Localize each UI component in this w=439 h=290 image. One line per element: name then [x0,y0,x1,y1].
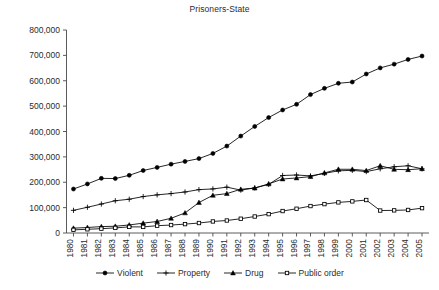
data-point [113,177,117,181]
data-point [323,202,326,205]
data-point [169,162,173,166]
filled-circle-icon [95,268,115,278]
data-point [169,223,172,226]
data-point [183,222,186,225]
data-point [100,227,103,230]
chart-legend: ViolentPropertyDrugPublic order [0,268,439,278]
data-point [379,209,382,212]
data-point [71,187,75,191]
data-point [141,169,145,173]
data-point [197,221,200,224]
y-axis-tick-label: 200,000 [29,177,60,187]
data-point [392,62,396,66]
x-axis-tick-label: 1990 [205,239,215,258]
data-point [308,93,312,97]
data-point [141,225,144,228]
x-axis-tick-label: 1984 [121,239,131,258]
data-point [155,224,158,227]
legend-item-violent[interactable]: Violent [95,268,143,278]
y-axis: 0100,000200,000300,000400,000500,000600,… [29,25,66,238]
x-axis-tick-label: 1983 [107,239,117,258]
x-axis-tick-label: 1985 [135,239,145,258]
open-square-icon [277,268,297,278]
data-point [71,208,76,213]
x-axis-tick-label: 1992 [233,239,243,258]
data-point [224,185,229,190]
data-point [420,54,424,58]
data-point [155,165,159,169]
legend-item-drug[interactable]: Drug [223,268,263,278]
data-point [392,209,395,212]
data-point [197,200,202,204]
data-point [155,192,160,197]
data-point [182,189,187,194]
series-public-order [72,198,424,231]
series-drug [71,163,424,230]
y-axis-tick-label: 800,000 [29,25,60,35]
data-point [239,134,243,138]
legend-label: Public order [299,268,344,278]
plus-icon [156,268,176,278]
chart-plot-area: 0100,000200,000300,000400,000500,000600,… [0,0,439,290]
x-axis-tick-label: 2004 [400,239,410,258]
data-point [295,102,299,106]
data-point [239,217,242,220]
y-axis-tick-label: 600,000 [29,76,60,86]
x-axis-tick-label: 1981 [79,239,89,258]
data-point [281,108,285,112]
x-axis-tick-label: 2001 [358,239,368,258]
data-point [378,163,383,167]
data-point [85,205,90,210]
y-axis-tick-label: 700,000 [29,50,60,60]
data-point [99,176,103,180]
y-axis-tick-label: 300,000 [29,152,60,162]
data-point [267,116,271,120]
data-point [351,200,354,203]
x-axis-tick-label: 1987 [163,239,173,258]
legend-item-public-order[interactable]: Public order [277,268,344,278]
data-point [378,66,382,70]
legend-label: Violent [117,268,143,278]
data-point [267,212,270,215]
data-point [210,186,215,191]
data-point [337,201,340,204]
data-point [253,215,256,218]
data-point [253,124,257,128]
x-axis-tick-label: 1982 [93,239,103,258]
legend-label: Drug [245,268,263,278]
y-axis-tick-label: 100,000 [29,203,60,213]
data-point [128,225,131,228]
x-axis-tick-label: 1995 [275,239,285,258]
data-point [364,72,368,76]
x-axis-tick-label: 2000 [344,239,354,258]
data-point [211,151,215,155]
data-point [197,157,201,161]
data-point [211,220,214,223]
x-axis-tick-label: 1986 [149,239,159,258]
x-axis-tick-label: 1994 [261,239,271,258]
data-point [295,207,298,210]
data-point [86,228,89,231]
data-point [183,159,187,163]
data-point [168,191,173,196]
data-point [114,226,117,229]
x-axis-tick-label: 2002 [372,239,382,258]
x-axis-tick-label: 1997 [302,239,312,258]
filled-triangle-icon [223,268,243,278]
data-point [196,187,201,192]
data-point [127,197,132,202]
legend-item-property[interactable]: Property [156,268,210,278]
x-axis-tick-label: 1996 [289,239,299,258]
x-axis-tick-label: 1991 [219,239,229,258]
x-axis-tick-label: 1998 [316,239,326,258]
data-point [281,209,284,212]
data-point [225,144,229,148]
chart-container: Prisoners-State 0100,000200,000300,00040… [0,0,439,290]
series-property [71,163,425,213]
data-point [127,173,131,177]
data-point [350,80,354,84]
legend-label: Property [178,268,210,278]
data-point [72,228,75,231]
data-point [113,198,118,203]
x-axis-tick-label: 1989 [191,239,201,258]
